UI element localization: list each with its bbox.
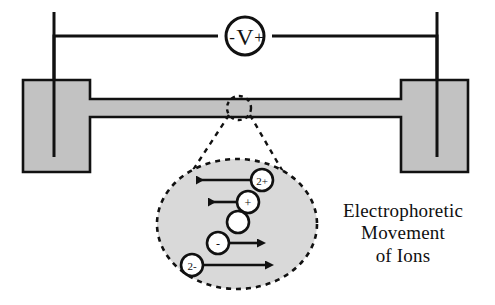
caption-line-3: of Ions xyxy=(318,245,488,267)
ion-minus-label: - xyxy=(216,237,220,251)
ion-neutral-circle xyxy=(227,211,249,233)
positive-terminal-label: + xyxy=(254,28,264,47)
voltage-symbol-label: V xyxy=(236,24,254,50)
caption-line-1: Electrophoretic xyxy=(318,200,488,222)
negative-terminal-label: - xyxy=(229,28,235,47)
ion-2minus-label: 2- xyxy=(187,260,197,272)
figure-root: - V + xyxy=(0,0,495,305)
power-supply[interactable]: - V + xyxy=(226,17,264,55)
ion-plus-label: + xyxy=(245,196,252,210)
ion-2plus-label: 2+ xyxy=(256,175,268,187)
caption-line-2: Movement xyxy=(318,222,488,244)
figure-caption: Electrophoretic Movement of Ions xyxy=(318,200,488,267)
ion-neutral-group xyxy=(227,211,249,233)
